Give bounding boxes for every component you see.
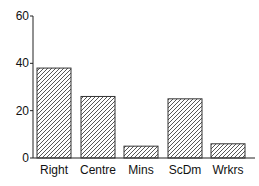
bars — [37, 68, 245, 158]
x-tick-label: Wrkrs — [212, 163, 243, 177]
y-tick-label: 40 — [16, 56, 30, 70]
y-tick-label: 60 — [16, 9, 30, 23]
x-tick-label: ScDm — [169, 163, 202, 177]
y-tick-label: 20 — [16, 104, 30, 118]
bar-mins — [124, 146, 158, 158]
bar-centre — [81, 96, 115, 158]
bar-scdm — [168, 99, 202, 158]
y-tick-label: 0 — [22, 151, 29, 165]
x-axis-labels: RightCentreMinsScDmWrkrs — [40, 163, 244, 177]
x-tick-label: Centre — [80, 163, 116, 177]
bar-wrkrs — [211, 144, 245, 158]
x-tick-label: Mins — [128, 163, 153, 177]
bar-right — [37, 68, 71, 158]
bar-chart: 0204060 RightCentreMinsScDmWrkrs — [0, 0, 259, 186]
x-tick-label: Right — [40, 163, 69, 177]
